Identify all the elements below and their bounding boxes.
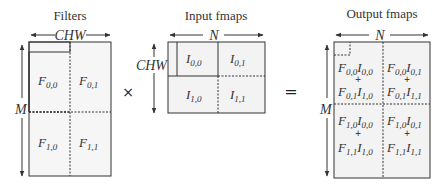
filters-height-label: M (14, 102, 28, 117)
diagram: Filters CHW M F0,0 F0,1 F1,0 F1,1 × Inpu… (0, 0, 443, 190)
svg-text:+: + (355, 129, 362, 138)
filters-width-label: CHW (54, 28, 86, 43)
output-title: Output fmaps (346, 6, 417, 21)
output-width-label: N (374, 28, 385, 43)
output-matrix (334, 42, 430, 178)
multiply-operator: × (122, 84, 134, 100)
input-title: Input fmaps (185, 8, 247, 23)
output-group: Output fmaps N M F0,0I0,0 + F0,1I1,0 F0,… (319, 6, 430, 178)
input-height-label: CHW (136, 58, 168, 73)
equals-operator: = (284, 82, 297, 101)
svg-text:+: + (404, 129, 411, 138)
input-width-label: N (208, 28, 219, 43)
svg-text:+: + (355, 75, 362, 84)
output-height-label: M (319, 102, 333, 117)
svg-text:+: + (404, 75, 411, 84)
filters-group: Filters CHW M F0,0 F0,1 F1,0 F1,1 (14, 8, 111, 176)
input-matrix (168, 42, 265, 113)
input-group: Input fmaps N CHW I0,0 I0,1 I1,0 I1,1 (136, 8, 265, 113)
filters-title: Filters (53, 8, 86, 23)
